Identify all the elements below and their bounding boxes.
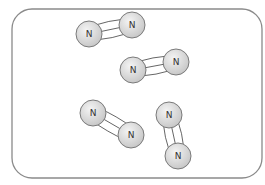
nitrogen-atom: N (120, 57, 146, 83)
atom-label: N (166, 110, 173, 120)
nitrogen-atom: N (163, 49, 189, 75)
atom-label: N (175, 151, 182, 161)
atom-label: N (86, 29, 93, 39)
nitrogen-atom: N (156, 102, 182, 128)
nitrogen-atom: N (165, 143, 191, 169)
atom-label: N (128, 130, 135, 140)
atom-label: N (173, 57, 180, 67)
diagram-canvas: NNNNNNNN (0, 0, 265, 185)
nitrogen-atom: N (76, 21, 102, 47)
atom-label: N (129, 20, 136, 30)
atom-label: N (130, 65, 137, 75)
nitrogen-atom: N (118, 122, 144, 148)
atom-label: N (90, 108, 97, 118)
nitrogen-atom: N (80, 100, 106, 126)
nitrogen-atom: N (119, 12, 145, 38)
